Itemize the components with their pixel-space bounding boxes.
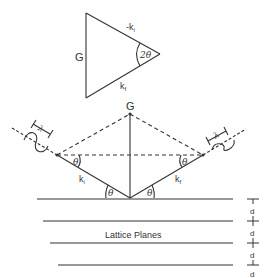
g-vector-head	[128, 112, 131, 115]
lambda-tick-right-2	[224, 127, 228, 135]
spacing-label-1: d	[250, 207, 254, 216]
triangle-side-ki	[86, 13, 160, 54]
spacing-label-2: d	[250, 229, 254, 238]
bragg-diagram: G -ki kf 2θ	[0, 0, 272, 278]
scatter-label-ki: ki	[79, 174, 85, 185]
dashed-upper-right	[130, 114, 203, 155]
spacing-label-3: d	[250, 251, 254, 260]
lambda-label-left: λ	[35, 123, 45, 134]
ki-origin-dot	[56, 154, 59, 157]
scattering-geometry	[12, 114, 246, 198]
triangle-angle-label: 2θ	[139, 50, 152, 60]
dashed-upper-left	[57, 114, 130, 155]
triangle-side-kf	[86, 54, 160, 98]
theta-label-lower-right: θ	[147, 188, 153, 198]
incident-wave	[24, 133, 48, 152]
lambda-tick-left-2	[48, 130, 53, 138]
triangle-label-kf: kf	[120, 81, 127, 92]
ki-vector	[57, 155, 130, 198]
theta-label-upper-right: θ	[182, 157, 188, 167]
spacing-label-4: d	[250, 270, 254, 278]
lambda-tick-right-1	[206, 137, 210, 145]
theta-label-lower-left: θ	[108, 188, 114, 198]
scatter-label-kf: kf	[175, 174, 182, 185]
diffracted-beam-extension	[203, 129, 246, 155]
kf-end-dot	[202, 154, 205, 157]
lattice-planes-label: Lattice Planes	[105, 230, 162, 240]
scatter-label-g: G	[126, 100, 135, 112]
lambda-tick-left-1	[31, 120, 36, 128]
lambda-label-right: λ	[211, 130, 221, 141]
triangle-label-g: G	[75, 51, 84, 63]
incident-beam-extension	[12, 128, 57, 155]
diffracted-wave	[212, 140, 234, 150]
kf-vector	[130, 155, 203, 198]
theta-label-upper-left: θ	[73, 157, 79, 167]
triangle-label-minus-ki: -ki	[126, 22, 135, 33]
